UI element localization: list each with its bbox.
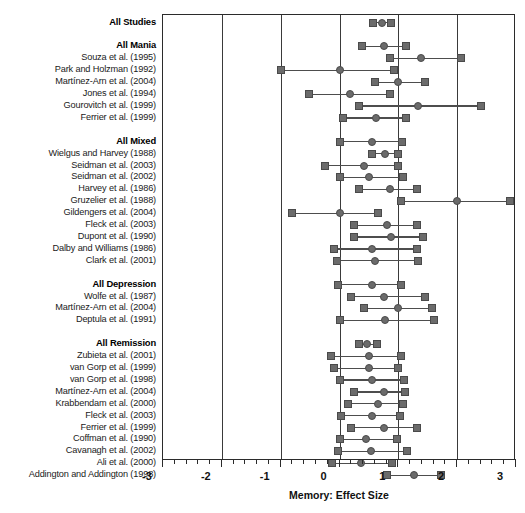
effect-size-point: [394, 78, 402, 86]
confidence-interval-line: [351, 296, 425, 297]
effect-size-row: [163, 303, 514, 314]
effect-size-row: [163, 53, 514, 64]
effect-size-point: [386, 185, 394, 193]
effect-size-point: [381, 150, 389, 158]
ci-upper-marker: [397, 352, 405, 360]
ci-lower-marker: [368, 150, 376, 158]
study-label: Krabbendam et al. (2000): [55, 398, 156, 408]
study-label: Harvey et al. (1986): [78, 183, 156, 193]
effect-size-point: [372, 114, 380, 122]
forest-plot-figure: All StudiesAll ManiaSouza et al. (1995)P…: [0, 0, 525, 513]
ci-lower-marker: [333, 257, 341, 265]
study-label: Clark et al. (2001): [86, 255, 156, 265]
ci-upper-marker: [421, 293, 429, 301]
axis-tick: [327, 460, 328, 464]
axis-tick: [386, 460, 387, 464]
axis-tick: [421, 460, 422, 464]
ci-upper-marker: [401, 388, 409, 396]
effect-size-row: [163, 65, 514, 76]
effect-size-point: [374, 400, 382, 408]
study-label: Seidman et al. (2002): [71, 171, 156, 181]
ci-upper-marker: [413, 424, 421, 432]
ci-upper-marker: [428, 304, 436, 312]
ci-upper-marker: [506, 197, 514, 205]
axis-tick: [303, 460, 304, 464]
effect-size-point: [371, 257, 379, 265]
ci-lower-marker: [330, 245, 338, 253]
ci-upper-marker: [403, 447, 411, 455]
effect-size-row: [163, 41, 514, 52]
ci-upper-marker: [414, 257, 422, 265]
axis-tick: [515, 460, 516, 467]
axis-tick: [209, 460, 210, 464]
axis-tick: [174, 460, 175, 464]
ci-lower-marker: [305, 90, 313, 98]
ci-upper-marker: [457, 54, 465, 62]
study-label: Gildengers et al. (2004): [64, 207, 156, 217]
effect-size-point: [360, 162, 368, 170]
study-label: Ali et al. (2000): [97, 457, 156, 467]
effect-size-row: [163, 112, 514, 123]
study-label: Dupont et al. (1990): [78, 231, 156, 241]
ci-lower-marker: [334, 447, 342, 455]
group-label: All Remission: [96, 338, 156, 348]
plot-area: [162, 14, 515, 460]
study-label: Ferrier et al. (1999): [81, 112, 156, 122]
effect-size-row: [163, 255, 514, 266]
ci-upper-marker: [400, 376, 408, 384]
effect-size-point: [365, 364, 373, 372]
axis-tick: [480, 460, 481, 464]
effect-size-point: [380, 424, 388, 432]
effect-size-point: [363, 340, 371, 348]
study-label: Fleck et al. (2003): [85, 410, 156, 420]
effect-size-row: [163, 351, 514, 362]
ci-upper-marker: [421, 78, 429, 86]
axis-tick: [456, 460, 457, 467]
effect-size-row: [163, 184, 514, 195]
effect-size-point: [368, 281, 376, 289]
study-label: Seidman et al. (2003): [71, 160, 156, 170]
effect-size-row: [163, 172, 514, 183]
effect-size-row: [163, 220, 514, 231]
ci-lower-marker: [350, 233, 358, 241]
ci-upper-marker: [396, 412, 404, 420]
study-label: van Gorp et al. (1999): [70, 362, 156, 372]
effect-size-point: [365, 173, 373, 181]
ci-upper-marker: [398, 138, 406, 146]
effect-size-point: [368, 138, 376, 146]
effect-size-row: [163, 422, 514, 433]
effect-size-point: [414, 102, 422, 110]
effect-size-point: [368, 376, 376, 384]
study-label: Martínez-Arn et al. (2004): [55, 302, 156, 312]
effect-size-point: [381, 316, 389, 324]
ci-lower-marker: [347, 424, 355, 432]
effect-size-row: [163, 446, 514, 457]
study-label: Wolfe et al. (1987): [84, 291, 156, 301]
effect-size-row: [163, 89, 514, 100]
effect-size-row: [163, 315, 514, 326]
effect-size-row: [163, 196, 514, 207]
axis-tick: [433, 460, 434, 464]
axis-tick: [468, 460, 469, 464]
study-label: Park and Holzman (1992): [55, 64, 156, 74]
ci-upper-marker: [413, 245, 421, 253]
ci-lower-marker: [355, 340, 363, 348]
ci-lower-marker: [288, 209, 296, 217]
study-label: van Gorp et al. (1998): [70, 374, 156, 384]
effect-size-point: [365, 352, 373, 360]
effect-size-point: [368, 245, 376, 253]
ci-lower-marker: [347, 293, 355, 301]
effect-size-point: [380, 42, 388, 50]
axis-tick: [444, 460, 445, 464]
effect-size-point: [453, 197, 461, 205]
effect-size-row: [163, 77, 514, 88]
ci-upper-marker: [399, 400, 407, 408]
ci-lower-marker: [327, 352, 335, 360]
ci-lower-marker: [360, 304, 368, 312]
axis-tick: [409, 460, 410, 464]
ci-lower-marker: [397, 197, 405, 205]
ci-upper-marker: [374, 209, 382, 217]
axis-tick: [503, 460, 504, 464]
ci-lower-marker: [336, 173, 344, 181]
effect-size-row: [163, 208, 514, 219]
